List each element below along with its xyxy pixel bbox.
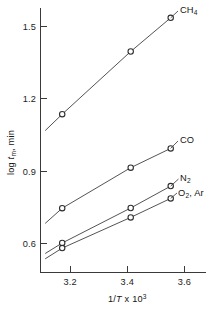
- arrhenius-plot-figure: 1.5 1.2 0.9 0.6 3.2 3.4 3.6 log tm, min …: [0, 0, 210, 317]
- series-ch4-point: [128, 49, 133, 54]
- x-tick-label-3p6: 3.6: [178, 277, 191, 287]
- series-co-leader: [171, 141, 178, 148]
- y-tick-label-0p9: 0.9: [23, 167, 36, 177]
- series-co-point: [128, 165, 133, 170]
- series-label-n2: N2: [180, 173, 191, 184]
- series-label-o2-ar: O2, Ar: [178, 188, 204, 199]
- series-label-co: CO: [180, 135, 194, 145]
- y-tick-label-1p2: 1.2: [23, 94, 36, 104]
- y-axis-title: log tm, min: [6, 130, 17, 175]
- x-tick-label-3p2: 3.2: [64, 277, 77, 287]
- series-label-o2-ar-main: O: [178, 188, 185, 198]
- series-co-line: [45, 148, 171, 223]
- series-co-point: [60, 206, 65, 211]
- series-label-n2-main: N: [180, 173, 187, 183]
- series-label-co-main: CO: [180, 135, 194, 145]
- x-axis-title-exponent: 3: [143, 293, 147, 300]
- x-tick-marks: [70, 266, 184, 273]
- series-label-ch4: CH4: [180, 5, 198, 16]
- series-n2-point: [128, 205, 133, 210]
- series-label-ch4-main: CH: [180, 5, 194, 15]
- series-label-ch4-sub: 4: [194, 9, 198, 16]
- series-ch4: CH4: [45, 5, 198, 131]
- y-tick-label-1p5: 1.5: [23, 22, 36, 32]
- x-axis-title: 1/T x 103: [108, 293, 147, 304]
- y-axis-title-suffix: , min: [6, 130, 16, 151]
- series-n2-leader: [171, 179, 179, 186]
- series-ch4-point: [60, 112, 65, 117]
- x-axis-title-mid: x 10: [122, 294, 143, 304]
- svg-text:log tm, min: log tm, min: [6, 130, 17, 175]
- series-label-o2-ar-tail: , Ar: [189, 188, 204, 198]
- series-label-n2-sub: 2: [187, 177, 191, 184]
- series-o2-ar-point: [60, 245, 65, 250]
- x-tick-label-3p4: 3.4: [121, 277, 134, 287]
- chart-canvas: 1.5 1.2 0.9 0.6 3.2 3.4 3.6 log tm, min …: [0, 0, 210, 317]
- y-axis-title-prefix: log: [6, 159, 16, 175]
- y-tick-label-0p6: 0.6: [23, 239, 36, 249]
- series-o2-ar-point: [128, 215, 133, 220]
- y-tick-marks: [41, 27, 48, 244]
- series-n2: N2: [45, 173, 191, 254]
- series-o2-ar: O2, Ar: [45, 188, 204, 259]
- series-co: CO: [45, 135, 194, 223]
- series-ch4-leader: [171, 11, 178, 18]
- x-axis-title-prefix: 1/: [108, 294, 116, 304]
